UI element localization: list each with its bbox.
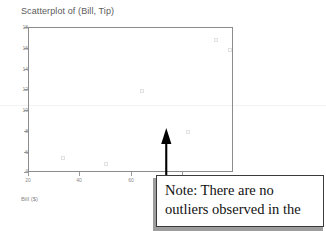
y-tick-label-18: 18 [8, 25, 28, 30]
y-tick-label-6: 6 [8, 150, 28, 155]
data-point [214, 38, 218, 42]
y-tick-label-8: 8 [8, 129, 28, 134]
annotation-arrow-icon [161, 128, 172, 178]
x-tick-label-60: 60 [121, 177, 141, 183]
y-tick-label-4: 4 [8, 169, 28, 174]
x-tick-mark [131, 172, 132, 176]
data-point [140, 89, 144, 93]
data-point [61, 156, 65, 160]
note-line-2: outliers observed in the [165, 200, 323, 219]
y-tick-label-16: 16 [8, 46, 28, 51]
data-point [228, 48, 232, 52]
x-tick-mark [28, 172, 29, 176]
x-tick-label-20: 20 [18, 177, 38, 183]
note-line-1: Note: There are no [165, 181, 323, 200]
data-point [104, 162, 108, 166]
data-point [186, 130, 190, 134]
note-callout: Note: There are no outliers observed in … [156, 175, 324, 227]
y-tick-label-14: 14 [8, 67, 28, 72]
scatterplot-screenshot: Scatterplot of (Bill, Tip) 18 16 14 12 1… [0, 0, 326, 231]
y-tick-label-12: 12 [8, 87, 28, 92]
x-tick-label-40: 40 [69, 177, 89, 183]
y-tick-label-10: 10 [8, 108, 28, 113]
x-axis-title: Bill ($) [21, 196, 38, 202]
plot-frame [28, 27, 233, 172]
page-title: Scatterplot of (Bill, Tip) [21, 6, 114, 16]
note-text: Note: There are no outliers observed in … [157, 176, 323, 219]
x-tick-mark [79, 172, 80, 176]
